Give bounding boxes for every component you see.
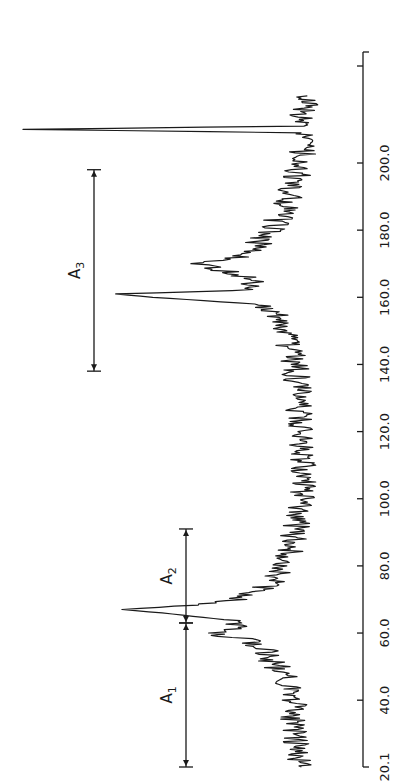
band-a3: A3 xyxy=(66,170,101,371)
tick-label: 200.0 xyxy=(377,144,392,181)
band-label-a3: A3 xyxy=(66,262,87,279)
tick-label: 60.0 xyxy=(377,619,392,648)
tick-label: 100.0 xyxy=(377,480,392,517)
band-label-a1: A1 xyxy=(158,686,179,703)
spectrum-trace xyxy=(23,96,318,767)
band-a1: A1 xyxy=(158,623,193,767)
tick-label: 140.0 xyxy=(377,346,392,383)
tick-label: 40.0 xyxy=(377,686,392,715)
tick-label: 160.0 xyxy=(377,279,392,316)
band-a2: A2 xyxy=(158,529,193,623)
region-annotations: A1A2A3 xyxy=(66,170,193,767)
spectrum-chart: 20.140.060.080.0100.0120.0140.0160.0180.… xyxy=(0,0,411,782)
tick-label: 20.1 xyxy=(377,753,392,782)
x-axis: 20.140.060.080.0100.0120.0140.0160.0180.… xyxy=(357,52,392,781)
tick-label: 180.0 xyxy=(377,212,392,249)
band-label-a2: A2 xyxy=(158,567,179,584)
tick-label: 120.0 xyxy=(377,413,392,450)
tick-label: 80.0 xyxy=(377,551,392,580)
